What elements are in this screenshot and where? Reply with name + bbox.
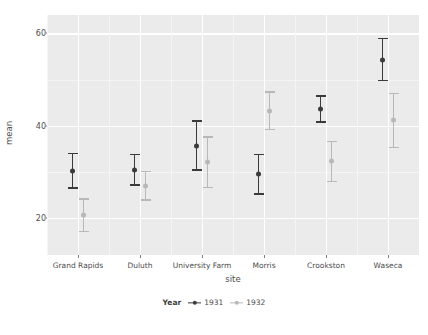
data-point: [329, 159, 334, 164]
data-point: [318, 106, 323, 111]
y-axis-ticks: 204060: [16, 0, 46, 265]
x-tick-label: Crookston: [307, 261, 345, 270]
errorbar-cap-bottom: [141, 199, 151, 200]
x-tick-mark: [388, 255, 389, 258]
errorbar-cap-top: [327, 141, 337, 142]
x-tick-label: University Farm: [173, 261, 232, 270]
x-axis-title: site: [47, 274, 419, 284]
errorbar-cap-top: [265, 91, 275, 92]
errorbar-cap-bottom: [203, 187, 213, 188]
gridline-major-vertical: [388, 15, 389, 255]
y-axis-title: mean: [2, 0, 16, 265]
gridline-minor-vertical: [109, 15, 110, 255]
gridline-major-vertical: [202, 15, 203, 255]
errorbar-cap-top: [141, 171, 151, 172]
x-tick-mark: [140, 255, 141, 258]
x-tick-mark: [202, 255, 203, 258]
errorbar-cap-bottom: [68, 187, 78, 188]
gridline-major-vertical: [140, 15, 141, 255]
x-tick-label: Morris: [252, 261, 275, 270]
gridline-major-vertical: [264, 15, 265, 255]
errorbar-cap-top: [79, 198, 89, 199]
x-tick-mark: [326, 255, 327, 258]
errorbar-cap-bottom: [79, 231, 89, 232]
data-point: [267, 108, 272, 113]
legend: Year 19311932: [0, 298, 428, 307]
errorbar-cap-bottom: [389, 147, 399, 148]
x-tick-mark: [264, 255, 265, 258]
error-bar-chart: mean 204060 Grand RapidsDuluthUniversity…: [0, 0, 428, 335]
gridline-minor-vertical: [295, 15, 296, 255]
legend-key-icon: [188, 298, 201, 307]
gridline-minor-vertical: [357, 15, 358, 255]
errorbar-cap-top: [254, 154, 264, 155]
gridline-minor-vertical: [47, 15, 48, 255]
x-tick-label: Grand Rapids: [53, 261, 104, 270]
legend-item-label: 1931: [204, 298, 223, 307]
errorbar-cap-top: [378, 38, 388, 39]
errorbar-cap-bottom: [316, 121, 326, 122]
errorbar-cap-bottom: [130, 184, 140, 185]
y-axis-title-label: mean: [4, 120, 14, 144]
errorbar-cap-bottom: [327, 181, 337, 182]
x-tick-mark: [78, 255, 79, 258]
gridline-minor-vertical: [171, 15, 172, 255]
legend-item[interactable]: 1931: [188, 298, 223, 307]
data-point: [194, 143, 199, 148]
errorbar-cap-bottom: [378, 80, 388, 81]
errorbar-cap-top: [192, 120, 202, 121]
errorbar-cap-top: [316, 95, 326, 96]
y-tick-label: 40: [20, 121, 46, 130]
data-point: [205, 160, 210, 165]
errorbar-cap-top: [130, 154, 140, 155]
gridline-major-vertical: [326, 15, 327, 255]
gridline-minor-vertical: [233, 15, 234, 255]
legend-item[interactable]: 1932: [230, 298, 265, 307]
legend-key-icon: [230, 298, 243, 307]
errorbar-cap-bottom: [254, 193, 264, 194]
y-tick-label: 20: [20, 214, 46, 223]
errorbar-cap-top: [389, 93, 399, 94]
errorbar-cap-top: [68, 153, 78, 154]
plot-panel: [47, 15, 419, 255]
legend-item-label: 1932: [246, 298, 265, 307]
legend-title: Year: [163, 298, 182, 307]
errorbar-cap-top: [203, 136, 213, 137]
y-tick-label: 60: [20, 29, 46, 38]
errorbar-cap-bottom: [265, 129, 275, 130]
gridline-major-vertical: [78, 15, 79, 255]
data-point: [143, 183, 148, 188]
data-point: [391, 118, 396, 123]
data-point: [256, 172, 261, 177]
x-tick-label: Waseca: [374, 261, 403, 270]
data-point: [380, 57, 385, 62]
x-tick-label: Duluth: [127, 261, 152, 270]
errorbar-cap-bottom: [192, 169, 202, 170]
